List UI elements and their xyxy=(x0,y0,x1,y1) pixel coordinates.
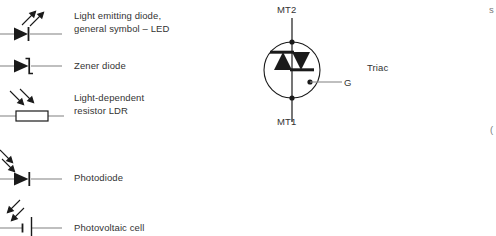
photovoltaic-cell-label: Photovoltaic cell xyxy=(74,222,144,235)
triac-terminal-mt1-label: MT1 xyxy=(277,116,296,129)
edge-fragment-mid-right: ( xyxy=(490,124,496,135)
triac-gate-label: G xyxy=(344,77,352,90)
zener-diode-symbol xyxy=(0,55,68,77)
led-label: Light emitting diode, general symbol – L… xyxy=(74,10,169,35)
triac-caption: Triac xyxy=(367,62,388,75)
ldr-label: Light-dependent resistor LDR xyxy=(74,92,144,117)
edge-fragment-top-right: s xyxy=(489,4,496,15)
symbol-sheet: Light emitting diode, general symbol – L… xyxy=(0,0,496,236)
led-symbol xyxy=(0,6,68,44)
ldr-symbol xyxy=(0,85,68,125)
triac-symbol xyxy=(258,18,368,123)
photodiode-label: Photodiode xyxy=(74,172,123,185)
zener-diode-label: Zener diode xyxy=(74,60,126,73)
photodiode-symbol xyxy=(0,147,68,189)
photovoltaic-cell-symbol xyxy=(0,196,68,236)
triac-terminal-mt2-label: MT2 xyxy=(277,4,296,17)
